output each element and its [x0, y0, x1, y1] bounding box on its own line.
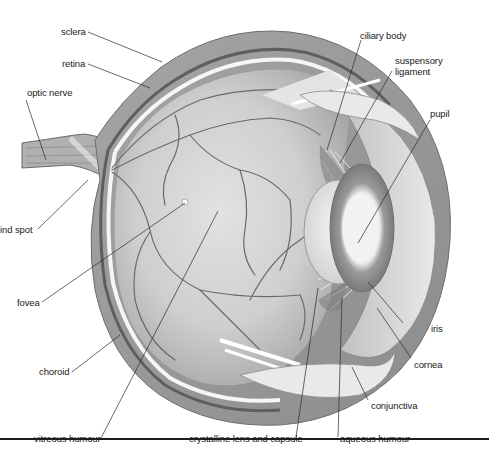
- label-optic-nerve: optic nerve: [27, 87, 72, 98]
- label-suspensory-ligament: suspensory ligament: [395, 55, 455, 77]
- label-sclera: sclera: [61, 26, 86, 37]
- bottom-rule: [0, 438, 489, 440]
- label-choroid: choroid: [39, 366, 69, 377]
- label-fovea: fovea: [17, 297, 40, 308]
- label-conjunctiva: conjunctiva: [371, 400, 417, 411]
- label-cornea: cornea: [414, 359, 442, 370]
- label-ciliary-body: ciliary body: [360, 30, 406, 41]
- label-retina: retina: [62, 58, 85, 69]
- pupil-shape: [342, 194, 378, 262]
- label-iris: iris: [431, 323, 443, 334]
- label-blind-spot: ind spot: [0, 224, 32, 235]
- label-pupil: pupil: [430, 108, 450, 119]
